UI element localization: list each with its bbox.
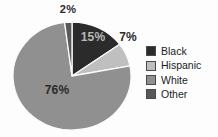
legend-row-hispanic: Hispanic bbox=[146, 58, 201, 72]
legend-swatch-black bbox=[146, 46, 156, 56]
legend: BlackHispanicWhiteOther bbox=[146, 44, 201, 102]
legend-swatch-other bbox=[146, 89, 156, 99]
pie-chart-figure: 15%7%76%2% BlackHispanicWhiteOther bbox=[0, 0, 218, 137]
legend-row-white: White bbox=[146, 73, 201, 87]
slice-value-label-other: 2% bbox=[60, 3, 76, 15]
slice-value-label-black: 15% bbox=[81, 30, 106, 44]
slice-value-label-white: 76% bbox=[45, 83, 70, 97]
legend-label-other: Other bbox=[161, 89, 187, 100]
legend-label-hispanic: Hispanic bbox=[161, 60, 201, 71]
legend-label-white: White bbox=[161, 75, 188, 86]
legend-row-black: Black bbox=[146, 44, 201, 58]
legend-row-other: Other bbox=[146, 87, 201, 101]
legend-swatch-hispanic bbox=[146, 61, 156, 71]
legend-label-black: Black bbox=[161, 46, 187, 57]
legend-swatch-white bbox=[146, 75, 156, 85]
slice-value-label-hispanic: 7% bbox=[119, 30, 137, 44]
